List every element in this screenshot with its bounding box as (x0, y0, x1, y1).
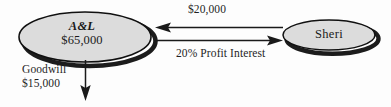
profit-interest-arrow-right (155, 36, 283, 46)
partnership-flow-diagram: A&L $65,000 Sheri $20,000 20% Profit Int… (0, 0, 391, 107)
cash-flow-arrow-left (155, 23, 283, 33)
sheri-node-ellipse (283, 20, 375, 50)
profit-interest-label: 20% Profit Interest (176, 47, 265, 59)
goodwill-label-line1: Goodwill (22, 62, 66, 76)
goodwill-label-line2: $15,000 (22, 76, 66, 90)
al-node-ellipse (19, 12, 151, 62)
goodwill-label: Goodwill $15,000 (22, 62, 66, 91)
cash-flow-label: $20,000 (188, 3, 226, 15)
